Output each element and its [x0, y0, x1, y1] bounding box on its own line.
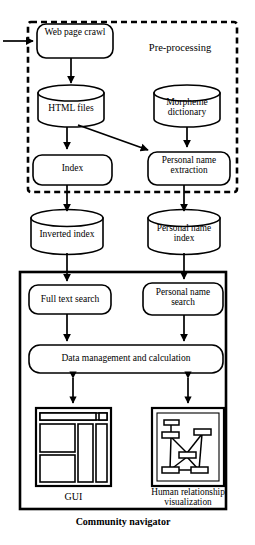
- label-pre-processing: Pre-processing: [130, 42, 230, 53]
- label-personal-name-search: Personal name search: [143, 287, 223, 307]
- label-personal-name-index: Personal name index: [148, 223, 220, 243]
- label-web-page-crawl: Web page crawl: [37, 27, 113, 37]
- label-inverted-index: Inverted index: [31, 229, 103, 239]
- label-gui: GUI: [36, 492, 111, 503]
- label-data-management: Data management and calculation: [29, 353, 223, 363]
- label-morpheme-dictionary: Morpheme dictionary: [154, 97, 220, 118]
- edge-html-to-extraction: [78, 125, 148, 150]
- label-html-files: HTML files: [38, 103, 104, 113]
- flowchart-diagram: [0, 0, 255, 545]
- label-index: Index: [33, 163, 112, 173]
- label-human-relationship-visualization: Human relationship visualization: [148, 487, 228, 507]
- label-full-text-search: Full text search: [29, 294, 111, 304]
- node-human-relationship-visualization: [152, 408, 224, 486]
- label-personal-name-extraction: Personal name extraction: [149, 155, 229, 175]
- caption-community-navigator: Community navigator: [20, 517, 226, 528]
- node-gui: [36, 408, 111, 486]
